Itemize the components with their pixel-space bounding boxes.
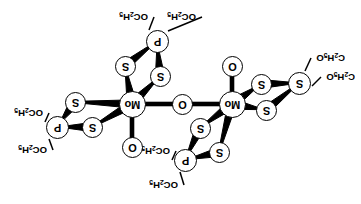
atom-s-top-b: S [150,66,171,87]
atom-p-left: P [46,116,69,139]
atom-s-left-b: S [82,117,103,138]
bond-wedge [220,115,232,144]
atom-s-bot-a: S [190,118,211,139]
substituent-ethoxy: OC2H5 [14,108,43,118]
formula-part: H [123,12,130,23]
formula-part: O [326,72,333,83]
subscript: 2 [25,108,29,115]
atom-o-bridge: O [172,94,193,115]
formula-part: H [171,12,178,23]
atom-s-top-a: S [115,56,136,77]
bond-wedge [67,124,83,131]
formula-part: OC [164,180,178,191]
subscript: 5 [149,180,153,187]
subscript: 2 [130,12,134,19]
atom-p-bot: P [174,149,197,172]
bond-wedge [84,100,120,107]
substituent-tether [49,139,53,150]
substituent-ethoxy: C2H5O [326,72,355,82]
subscript: 5 [119,12,123,19]
atom-p-top: P [146,30,169,53]
formula-part: H [18,108,25,119]
substituent-tether [305,58,311,71]
formula-part: H [145,146,152,157]
formula-part: H [153,180,160,191]
substituent-ethoxy: C2H5O [316,53,345,63]
formula-part: OC [182,12,196,23]
subscript: 2 [160,180,164,187]
formula-part: C [348,72,355,83]
substituent-tether [312,77,321,86]
formula-part: C [338,53,345,64]
subscript: 5 [334,72,338,79]
atom-o-term-left: O [122,137,143,158]
bond-wedge [270,80,289,87]
formula-part: OC [156,146,170,157]
subscript: 2 [344,72,348,79]
bond-wedge [156,51,163,67]
formula-part: O [316,53,323,64]
atom-mo-right: Mo [219,91,246,118]
formula-part: OC [33,145,47,156]
formula-part: OC [134,12,148,23]
atom-s-right-b: S [256,100,277,121]
atom-o-term-right: O [222,56,243,77]
substituent-ethoxy: OC2H5 [149,180,178,190]
substituent-ethoxy: OC2H5 [18,145,47,155]
subscript: 2 [152,146,156,153]
substituent-tether [149,17,154,30]
subscript: 5 [18,145,22,152]
subscript: 5 [14,108,18,115]
atom-s-left-a: S [65,92,86,113]
atom-s-bot-b: S [209,142,230,163]
substituent-ethoxy: OC2H5 [141,146,170,156]
atom-mo-left: Mo [119,91,146,118]
subscript: 2 [29,145,33,152]
substituent-tether [180,172,184,185]
subscript: 2 [334,53,338,60]
atom-s-right-a: S [251,74,272,95]
chemical-structure-diagram: MoMoOOOSSPSSPSSPSSS OC2H5OC2H5OC2H5OC2H5… [0,0,361,204]
subscript: 5 [167,12,171,19]
substituent-ethoxy: OC2H5 [167,12,196,22]
subscript: 2 [178,12,182,19]
atom-p-right: S [288,72,311,95]
subscript: 5 [324,53,328,60]
formula-part: H [22,145,29,156]
formula-part: OC [29,108,43,119]
substituent-ethoxy: OC2H5 [119,12,148,22]
